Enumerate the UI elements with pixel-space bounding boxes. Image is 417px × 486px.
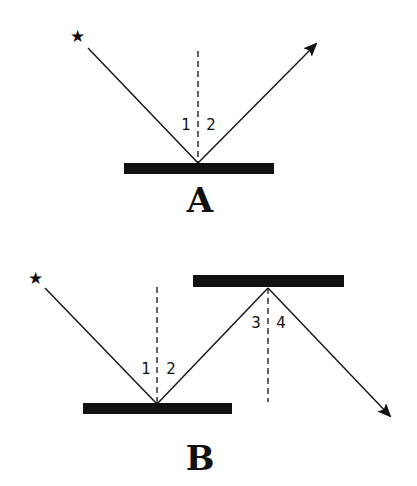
second-reflected-ray [268,288,390,416]
star-icon: ★ [28,269,43,288]
diagram-a: ★ 1 2 A [70,27,317,220]
upper-mirror [193,275,344,287]
angle-label-2: 2 [166,360,176,378]
reflection-diagram: ★ 1 2 A ★ 1 2 3 4 B [0,0,417,486]
angle-label-1: 1 [141,360,151,378]
angle-label-2: 2 [206,116,216,134]
lower-mirror [83,403,232,414]
diagram-b: ★ 1 2 3 4 B [28,269,391,478]
diagram-label-b: B [186,438,215,478]
diagram-label-a: A [186,180,214,220]
angle-label-3: 3 [251,314,261,332]
angle-label-1: 1 [181,116,191,134]
first-reflected-ray [157,288,268,404]
star-icon: ★ [70,27,85,46]
incident-ray [45,288,157,404]
angle-label-4: 4 [276,314,286,332]
mirror [124,163,274,174]
reflected-ray [198,44,316,163]
incident-ray [88,48,198,163]
